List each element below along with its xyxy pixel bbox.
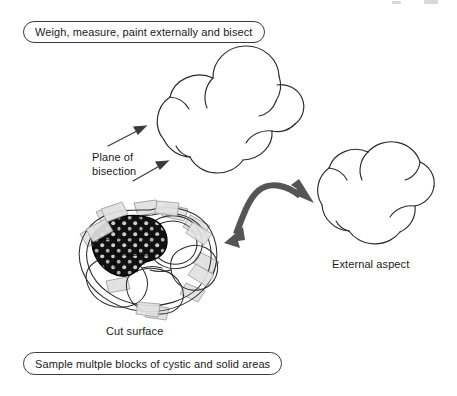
pathology-specimen-diagram	[0, 0, 457, 396]
bisection-arrow-lower	[133, 161, 168, 181]
specimen-cut-surface	[79, 200, 219, 320]
transfer-double-arrow	[224, 179, 314, 248]
plane-caption-line1: Plane of	[92, 151, 136, 165]
plane-caption-line2: bisection	[92, 165, 136, 179]
specimen-external-outline	[318, 142, 435, 244]
external-aspect-caption: External aspect	[332, 258, 409, 270]
page-edge-artifact	[392, 0, 438, 4]
instruction-label-top: Weigh, measure, paint externally and bis…	[23, 21, 265, 43]
specimen-whole-outline	[157, 46, 304, 173]
diagram-canvas: Weigh, measure, paint externally and bis…	[0, 0, 457, 396]
instruction-label-bottom: Sample multple blocks of cystic and soli…	[23, 352, 282, 375]
cut-surface-caption: Cut surface	[106, 325, 163, 337]
bisection-arrow-upper	[108, 126, 146, 146]
plane-of-bisection-caption: Plane of bisection	[92, 151, 136, 178]
